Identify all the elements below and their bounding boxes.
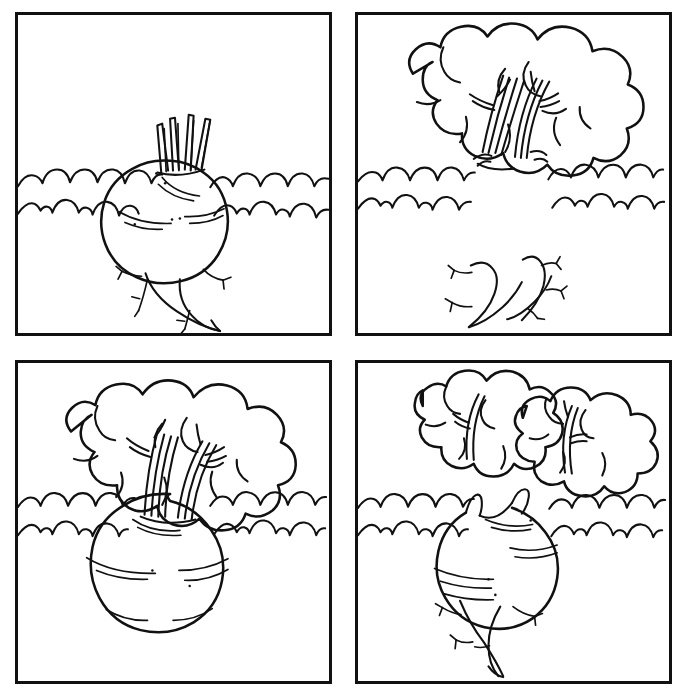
panel-1-frame bbox=[15, 12, 332, 336]
texture-dot bbox=[494, 594, 497, 597]
turnip-bulb bbox=[101, 160, 228, 283]
panel-grid bbox=[0, 0, 680, 696]
cut-stems bbox=[157, 115, 210, 175]
texture-dot bbox=[487, 578, 490, 581]
panel-top-right[interactable] bbox=[340, 0, 680, 348]
texture-dot bbox=[133, 223, 136, 226]
texture-dot bbox=[164, 182, 167, 185]
taproot bbox=[436, 601, 543, 677]
panel-bottom-left[interactable] bbox=[0, 348, 340, 696]
panel-1-artwork bbox=[18, 15, 329, 333]
panel-4-artwork bbox=[358, 363, 669, 681]
panel-3-artwork bbox=[18, 363, 329, 681]
ground-line bbox=[358, 165, 664, 210]
panel-top-left[interactable] bbox=[0, 0, 340, 348]
ground-line bbox=[18, 170, 329, 218]
detached-roots bbox=[445, 257, 567, 328]
leaf-canopy bbox=[66, 380, 295, 530]
texture-dot bbox=[171, 218, 174, 221]
texture-dot bbox=[179, 217, 182, 220]
turnip-bulb bbox=[87, 494, 228, 632]
panel-2-artwork bbox=[358, 15, 669, 333]
panel-2-frame bbox=[355, 12, 672, 336]
turnip-bulb bbox=[435, 489, 558, 629]
panel-bottom-right[interactable] bbox=[340, 348, 680, 696]
detached-leaf-canopy-left bbox=[415, 371, 563, 477]
detached-leaf-canopy-right bbox=[515, 387, 658, 496]
leaf-stems bbox=[470, 72, 559, 170]
panel-4-frame bbox=[355, 360, 672, 684]
texture-dot bbox=[151, 569, 154, 572]
comic-sheet bbox=[0, 0, 680, 696]
panel-3-frame bbox=[15, 360, 332, 684]
texture-dot bbox=[529, 519, 532, 522]
texture-dot bbox=[188, 585, 191, 588]
